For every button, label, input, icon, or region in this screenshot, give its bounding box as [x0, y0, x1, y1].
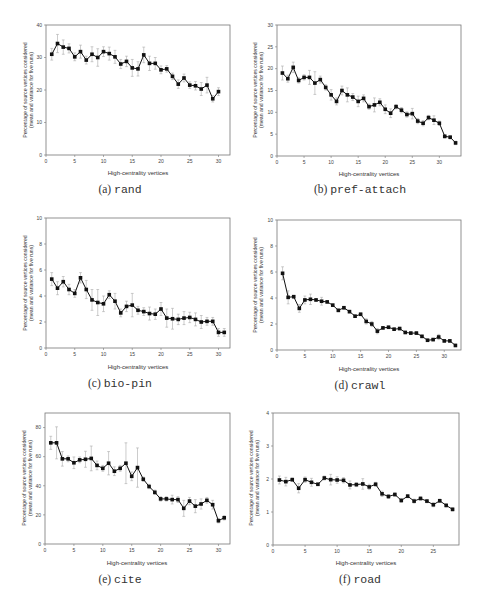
data-point — [346, 93, 350, 97]
y-tick-label: 0 — [39, 152, 42, 158]
data-point — [302, 76, 306, 80]
x-tick-label: 25 — [187, 547, 193, 553]
data-point — [84, 457, 88, 461]
y-axis-label: Percentage of source vertices considered… — [21, 408, 33, 548]
data-point — [442, 339, 446, 343]
data-point — [159, 307, 163, 311]
data-point — [281, 71, 285, 75]
data-line — [52, 44, 219, 99]
data-point — [432, 118, 436, 122]
data-point — [286, 77, 290, 81]
data-point — [381, 326, 385, 330]
y-tick-label: 10 — [267, 109, 273, 115]
data-point — [284, 480, 288, 484]
error-bars — [281, 267, 457, 347]
panel-crawl: 0246810051015202530 Percentage of source… — [240, 200, 480, 400]
data-point — [278, 478, 282, 482]
data-point — [355, 483, 359, 487]
y-axis-label: Percentage of source vertices considered… — [22, 213, 34, 353]
data-point — [79, 50, 83, 54]
data-point — [329, 478, 333, 482]
data-point — [119, 62, 123, 66]
x-tick-label: 10 — [100, 547, 106, 553]
y-tick-label: 10 — [36, 119, 42, 125]
x-tick-label: 30 — [437, 159, 443, 165]
data-point — [130, 66, 134, 70]
x-tick-label: 5 — [304, 548, 307, 554]
data-point — [325, 300, 329, 304]
data-point — [159, 497, 163, 501]
data-point — [410, 112, 414, 116]
y-axis-label: Percentage of source vertices considered… — [252, 20, 264, 160]
data-point — [130, 303, 134, 307]
data-point — [400, 108, 404, 112]
data-point — [376, 329, 380, 333]
y-axis-label-line2: (mean and variance for five runs) — [28, 213, 34, 353]
data-point — [72, 461, 76, 465]
y-axis-label-line2: (mean and variance for five runs) — [28, 20, 34, 160]
data-point — [367, 485, 371, 489]
y-tick-label: 2 — [39, 319, 42, 325]
data-point — [421, 121, 425, 125]
data-point — [102, 302, 106, 306]
data-point — [176, 318, 180, 322]
y-tick-label: 2 — [270, 321, 273, 327]
y-tick-label: 0 — [266, 542, 269, 548]
data-point — [205, 83, 209, 87]
data-point — [291, 66, 295, 70]
caption-rand: (a) rand — [0, 183, 240, 196]
data-point — [222, 331, 226, 335]
x-tick-label: 15 — [129, 547, 135, 553]
data-point — [199, 87, 203, 91]
data-point — [393, 493, 397, 497]
data-point — [194, 504, 198, 508]
data-point — [107, 52, 111, 56]
data-point — [73, 292, 77, 296]
data-point — [310, 481, 314, 485]
y-axis-label-line2: (mean and variance for five runs) — [258, 215, 264, 355]
data-point — [55, 441, 59, 445]
data-point — [297, 486, 301, 490]
data-point — [432, 503, 436, 507]
x-tick-label: 10 — [330, 353, 336, 359]
x-axis-label: High-centrality vertices — [269, 366, 469, 372]
data-point — [84, 58, 88, 62]
x-tick-label: 30 — [216, 158, 222, 164]
data-point — [182, 507, 186, 511]
panel-cite: 020406080051015202530 Percentage of sour… — [0, 400, 240, 600]
plot-frame — [273, 413, 459, 545]
data-point — [443, 135, 447, 139]
data-point — [153, 491, 157, 495]
data-point — [303, 298, 307, 302]
data-point — [153, 62, 157, 66]
data-point — [130, 475, 134, 479]
data-point — [107, 461, 111, 465]
data-point — [107, 293, 111, 297]
y-axis-label: Percentage of source vertices considered… — [22, 20, 34, 160]
data-point — [67, 288, 71, 292]
x-tick-label: 20 — [158, 547, 164, 553]
data-point — [79, 276, 83, 280]
data-point — [362, 97, 366, 101]
data-point — [61, 280, 65, 284]
data-point — [412, 499, 416, 503]
data-point — [448, 135, 452, 139]
x-tick-label: 20 — [158, 158, 164, 164]
x-axis-label: High-centrality vertices — [269, 171, 469, 177]
y-axis-label: Percentage of source vertices considered… — [252, 215, 264, 355]
error-bars — [50, 273, 225, 337]
data-point — [318, 78, 322, 82]
data-point — [313, 81, 317, 85]
y-axis-label: Percentage of source vertices considered… — [248, 408, 260, 548]
x-tick-label: 25 — [410, 159, 416, 165]
data-point — [426, 338, 430, 342]
data-point — [364, 320, 368, 324]
caption-letter: (d) — [335, 379, 348, 391]
data-point — [427, 116, 431, 120]
data-point — [387, 495, 391, 499]
caption-name: pref-attach — [330, 183, 406, 196]
data-point — [113, 55, 117, 59]
y-tick-label: 6 — [39, 267, 42, 273]
y-tick-label: 1 — [266, 509, 269, 515]
data-point — [448, 339, 452, 343]
